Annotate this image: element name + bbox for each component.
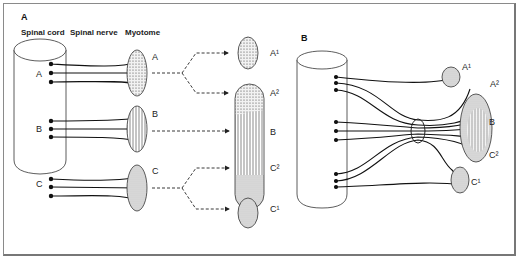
panel-b-label: B: [301, 33, 308, 43]
spinal-cord-a: [14, 39, 66, 174]
migration-arrows: [152, 53, 229, 209]
cord-level-c: C: [36, 179, 43, 189]
b-label-c2: C²: [489, 150, 499, 160]
result-label-b: B: [270, 127, 276, 137]
result-label-a1: A¹: [270, 48, 279, 58]
result-label-c1: C¹: [270, 204, 280, 214]
nerves-a: [49, 62, 140, 200]
result-label-c2: C²: [270, 163, 280, 173]
result-combined: [235, 84, 264, 215]
myotome-a: [127, 50, 147, 96]
myotome-label-c: C: [152, 166, 159, 176]
myotome-label-b: B: [152, 109, 158, 119]
b-myotome-combined: [460, 94, 492, 162]
myotome-label-a: A: [152, 52, 158, 62]
cord-level-b: B: [36, 124, 42, 134]
myotome-b: [127, 106, 147, 152]
result-a1: [238, 37, 258, 69]
b-label-a2: A²: [490, 79, 499, 89]
header-spinal-cord: Spinal cord: [21, 28, 65, 37]
spinal-cord-b: [297, 51, 347, 208]
header-myotome: Myotome: [125, 28, 161, 37]
b-label-a1: A¹: [462, 62, 471, 72]
myotome-diagram: A Spinal cord Spinal nerve Myotome A B C…: [0, 0, 517, 258]
b-label-c1: C¹: [471, 177, 481, 187]
result-label-a2: A²: [270, 88, 279, 98]
result-c1: [238, 198, 258, 228]
b-myotome-a1: [442, 67, 460, 87]
b-myotome-c1: [451, 167, 469, 193]
myotome-c: [127, 165, 147, 211]
cord-level-a: A: [36, 69, 42, 79]
b-label-b: B: [489, 117, 495, 127]
panel-a-label: A: [21, 12, 28, 22]
header-spinal-nerve: Spinal nerve: [70, 28, 118, 37]
